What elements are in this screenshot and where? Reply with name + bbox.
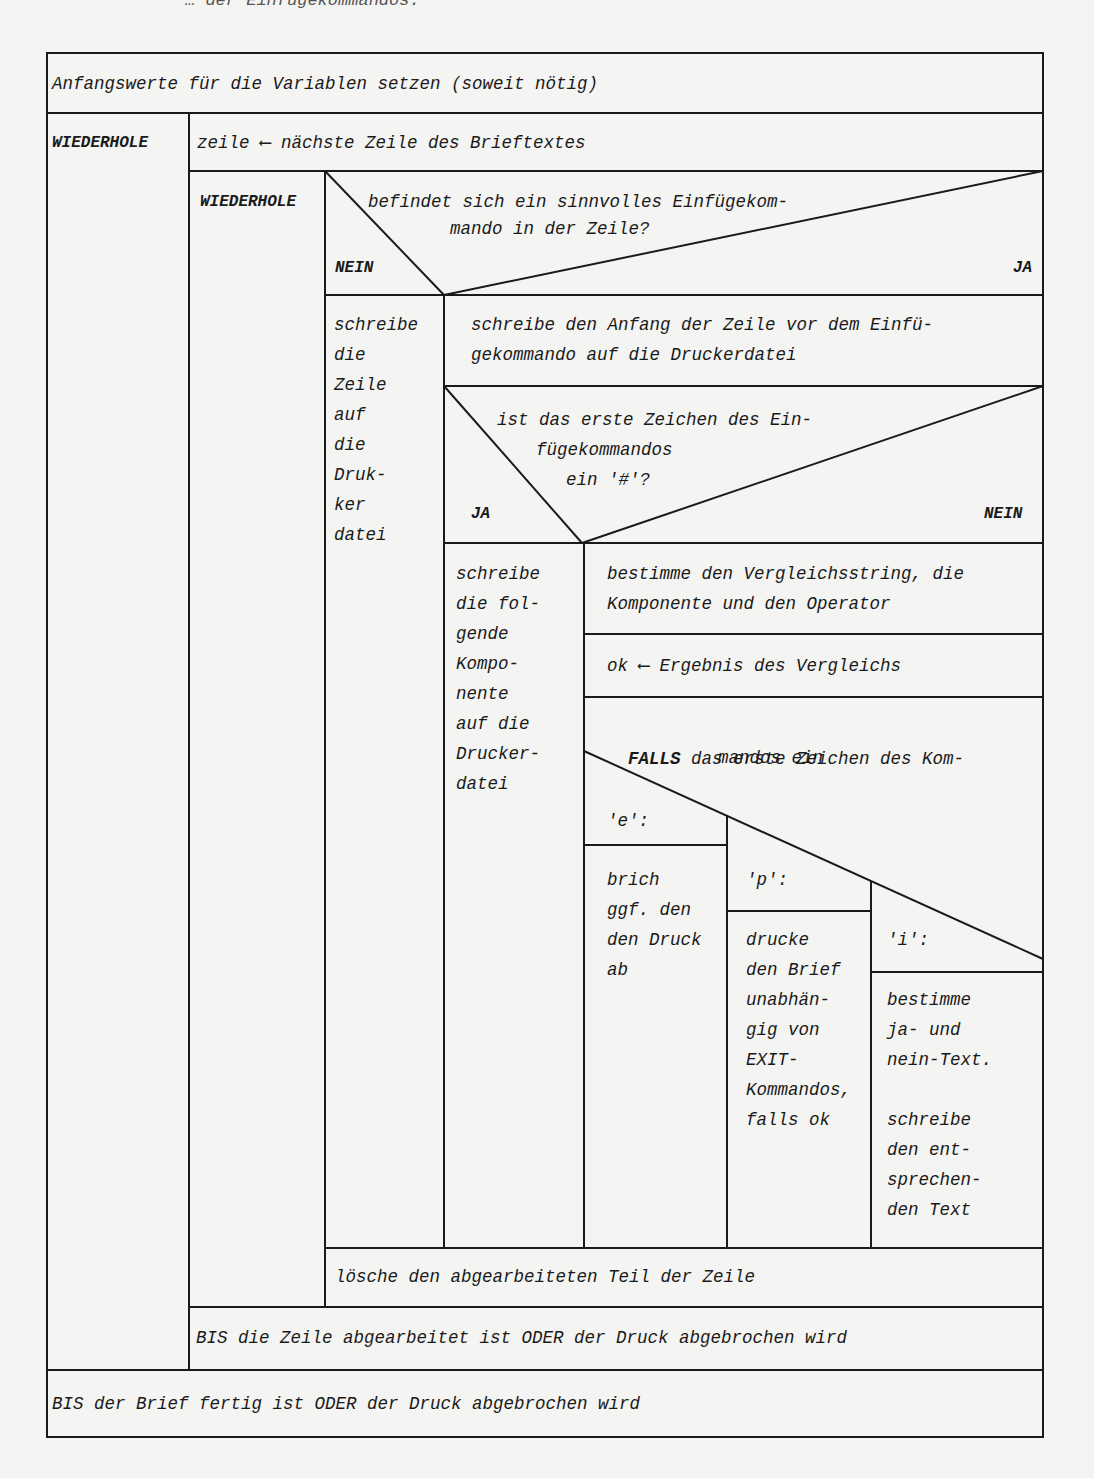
decision1-question-line1: befindet sich ein sinnvolles Einfügekom- — [368, 187, 788, 218]
outer-loop-keyword: WIEDERHOLE — [52, 128, 148, 159]
decision1-yes-label: JA — [1013, 253, 1032, 284]
case-i-label: 'i': — [887, 925, 929, 956]
delete-processed-step: lösche den abgearbeiteten Teil der Zeile — [335, 1262, 755, 1293]
case-e-label: 'e': — [607, 806, 649, 837]
case-p-label: 'p': — [746, 865, 788, 896]
write-prefix-line2: gekommando auf die Druckerdatei — [471, 340, 797, 371]
write-prefix-line1: schreibe den Anfang der Zeile vor dem Ei… — [471, 310, 933, 341]
decision2-line1: ist das erste Zeichen des Ein- — [497, 405, 812, 436]
decision2-line3: ein '#'? — [566, 465, 650, 496]
case-keyword: FALLS — [628, 749, 681, 769]
decision2-line2: fügekommandos — [536, 435, 673, 466]
compare-result-step: ok ⟵ Ergebnis des Vergleichs — [607, 651, 901, 682]
determine-compare-line1: bestimme den Vergleichsstring, die — [607, 559, 964, 590]
decision1-question-line2: mando in der Zeile? — [450, 214, 650, 245]
init-step: Anfangswerte für die Variablen setzen (s… — [52, 69, 598, 100]
inner-loop-until: BIS die Zeile abgearbeitet ist ODER der … — [196, 1323, 847, 1354]
decision2-yes-label: JA — [471, 499, 490, 530]
determine-compare-line2: Komponente und den Operator — [607, 589, 891, 620]
decision1-no-label: NEIN — [335, 253, 373, 284]
outer-loop-until: BIS der Brief fertig ist ODER der Druck … — [52, 1389, 640, 1420]
decision2-no-label: NEIN — [984, 499, 1022, 530]
read-line-step: zeile ⟵ nächste Zeile des Brieftextes — [197, 128, 586, 159]
case-header-line2: mandos ein — [718, 743, 823, 774]
inner-loop-keyword: WIEDERHOLE — [200, 187, 296, 218]
